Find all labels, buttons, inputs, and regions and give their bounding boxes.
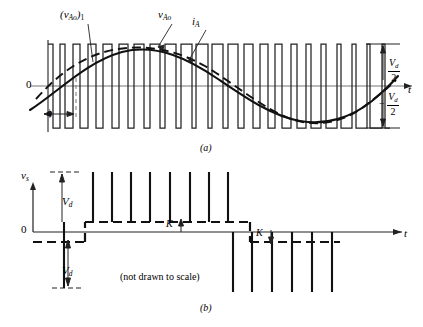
label-k-marker-1: K: [166, 219, 173, 229]
label-vd-upper: Vd: [62, 196, 72, 209]
panel-b-y-axis-arrow: [30, 182, 36, 190]
label-phase-angle: ϕ: [47, 108, 52, 118]
label-fundamental-voltage: (vAo)1: [60, 9, 84, 22]
label-vd-lower: Vd: [62, 265, 72, 278]
panel-b-t-axis-arrow: [393, 229, 402, 235]
fundamental-voltage-curve: [36, 48, 396, 124]
pwm-waveform-figure: [0, 0, 423, 327]
panel-b-origin-label: 0: [21, 224, 27, 235]
panel-a-leader-lines: [88, 24, 206, 62]
label-negative-half-dc-level: − Vd 2: [379, 92, 399, 117]
panel-b: [30, 172, 402, 292]
label-current: iA: [192, 16, 200, 29]
panel-a-caption: (a): [200, 143, 212, 153]
panel-a-time-axis-label: t: [408, 84, 411, 95]
panel-b-caption: (b): [200, 303, 212, 313]
panel-a: [30, 24, 412, 132]
panel-a-origin-label: 0: [26, 79, 32, 90]
k-marker-1-arrow: [179, 219, 184, 232]
label-pole-voltage: vAo: [158, 9, 171, 22]
scale-note: (not drawn to scale): [120, 272, 200, 282]
panel-b-time-axis-label: t: [404, 228, 407, 239]
label-positive-half-dc-level: Vd 2: [388, 58, 400, 83]
label-k-marker-2: K: [256, 228, 263, 238]
panel-b-positive-spikes: [93, 172, 228, 222]
panel-b-y-axis-label: vs: [21, 170, 29, 183]
